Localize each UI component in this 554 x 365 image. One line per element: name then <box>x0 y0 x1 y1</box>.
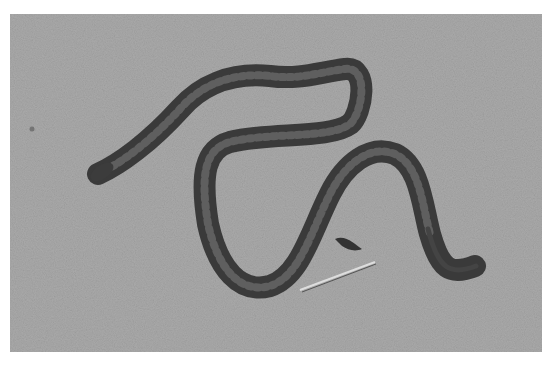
snake-photo <box>10 14 542 352</box>
snake-illustration <box>10 14 542 352</box>
sand-background <box>10 14 542 352</box>
debris-spot <box>30 127 35 132</box>
